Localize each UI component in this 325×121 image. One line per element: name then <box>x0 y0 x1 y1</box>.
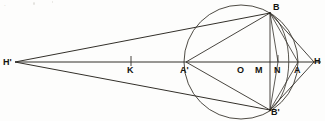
point-dot-b <box>269 12 271 14</box>
segment-hprime-bprime <box>15 62 270 110</box>
point-label-h-prime: H' <box>3 58 12 67</box>
diagram-canvas: . H' K A' O M N <box>0 0 325 121</box>
segment-hprime-b <box>15 13 270 62</box>
point-label-a-prime: A' <box>180 66 189 75</box>
point-label-b: B <box>273 3 280 12</box>
geometry-figure <box>0 0 325 121</box>
segment-aprime-b <box>186 13 270 62</box>
point-label-o: O <box>237 66 244 75</box>
point-label-b-prime: B' <box>271 108 280 117</box>
point-label-k: K <box>127 66 134 75</box>
point-label-a: A <box>294 66 301 75</box>
point-label-n: N <box>274 66 281 75</box>
point-label-m: M <box>255 66 263 75</box>
point-label-h: H <box>314 57 321 66</box>
